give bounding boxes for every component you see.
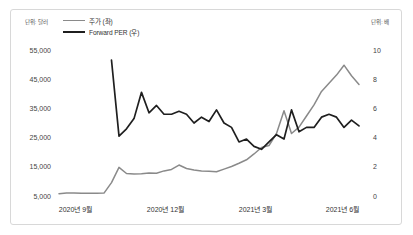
y-axis-left-tick-label: 45,000 <box>30 76 52 83</box>
y-axis-left-tick-label: 15,000 <box>30 163 52 170</box>
x-axis-tick-label: 2021년 3월 <box>239 205 272 213</box>
chart-plot-area: 55,00045,00035,00025,00015,0005,000 1086… <box>11 10 403 226</box>
y-axis-right-tick-label: 2 <box>373 163 377 170</box>
y-axis-left-ticks: 55,00045,00035,00025,00015,0005,000 <box>30 47 52 200</box>
y-axis-right-tick-label: 8 <box>373 76 377 83</box>
x-axis-tick-label: 2020년 12월 <box>147 205 184 213</box>
y-axis-right-tick-label: 6 <box>373 105 377 112</box>
y-axis-left-tick-label: 35,000 <box>30 105 52 112</box>
y-axis-right-ticks: 1086420 <box>373 47 381 200</box>
chart-frame: 단위: 달러 단위: 배 주가 (좌) Forward PER (우) 55,0… <box>10 9 402 225</box>
y-axis-right-tick-label: 0 <box>373 193 377 200</box>
y-axis-right-tick-label: 4 <box>373 134 377 141</box>
chart-screenshot: 단위: 달러 단위: 배 주가 (좌) Forward PER (우) 55,0… <box>0 0 413 235</box>
series-line-per <box>112 60 360 149</box>
y-axis-left-tick-label: 5,000 <box>33 193 51 200</box>
x-axis-ticks: 2020년 9월2020년 12월2021년 3월2021년 6월 <box>59 205 359 213</box>
x-axis-tick-label: 2020년 9월 <box>59 205 92 213</box>
y-axis-left-tick-label: 25,000 <box>30 134 52 141</box>
series-line-price <box>59 65 359 193</box>
y-axis-right-tick-label: 10 <box>373 47 381 54</box>
x-axis-tick-label: 2021년 6월 <box>326 205 359 213</box>
y-axis-left-tick-label: 55,000 <box>30 47 52 54</box>
